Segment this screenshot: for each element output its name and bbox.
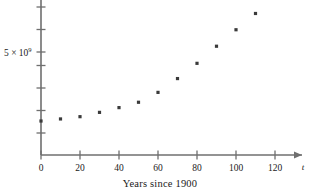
data-point <box>117 106 120 109</box>
x-tick-label-0: 0 <box>39 163 44 173</box>
data-point <box>156 91 159 94</box>
x-axis-arrow-icon <box>294 152 302 159</box>
data-point <box>39 119 42 122</box>
data-point <box>78 115 81 118</box>
data-point <box>234 28 237 31</box>
data-point-group <box>39 12 257 123</box>
x-tick-label-20: 20 <box>75 163 85 173</box>
data-point <box>137 101 140 104</box>
data-point <box>254 12 257 15</box>
figure-caption: Years since 1900 <box>123 178 197 189</box>
data-point <box>176 77 179 80</box>
x-tick-label-100: 100 <box>229 163 244 173</box>
data-point <box>215 45 218 48</box>
x-tick-label-80: 80 <box>192 163 202 173</box>
x-axis-variable-label: t <box>302 162 305 172</box>
y-axis-tick-label: 5 × 109 <box>4 46 32 58</box>
chart-svg: 5 × 109 0 20 40 60 80 100 120 t Years si… <box>0 0 315 191</box>
data-point <box>98 111 101 114</box>
x-tick-label-40: 40 <box>114 163 124 173</box>
x-tick-label-60: 60 <box>153 163 163 173</box>
data-point <box>195 62 198 65</box>
data-point <box>59 117 62 120</box>
y-axis-tick-label-mantissa: 5 × 10 <box>4 48 29 58</box>
y-axis-tick-label-exponent: 9 <box>28 46 32 53</box>
x-tick-label-120: 120 <box>268 163 283 173</box>
population-scatter-figure: 5 × 109 0 20 40 60 80 100 120 t Years si… <box>0 0 315 191</box>
